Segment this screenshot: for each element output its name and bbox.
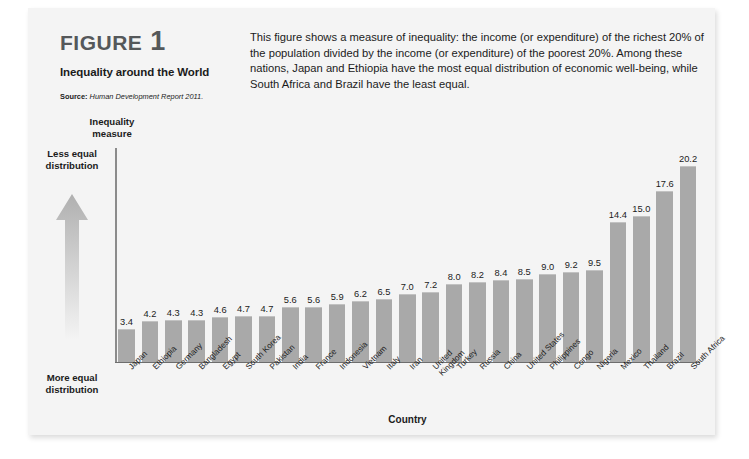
- bar-slot: 20.2: [677, 149, 700, 362]
- scale-legend: Less equal distribution More equal distr…: [34, 146, 110, 396]
- bar-slot: 5.9: [326, 149, 349, 362]
- figure-title-block: FIGURE 1 Inequality around the World Sou…: [60, 26, 240, 101]
- x-axis-title: Country: [115, 414, 700, 425]
- bar-value-label: 20.2: [673, 154, 704, 164]
- bars-layer: 3.44.24.34.34.64.74.75.65.65.96.26.57.07…: [115, 149, 700, 362]
- source-label: Source:: [60, 92, 88, 101]
- bar: [399, 294, 416, 362]
- figure-header: FIGURE 1 Inequality around the World Sou…: [28, 8, 715, 108]
- bar: [516, 279, 533, 361]
- bar-slot: 5.6: [302, 149, 325, 362]
- bar: [610, 222, 627, 361]
- bar-slot: 9.5: [583, 149, 606, 362]
- figure-subtitle: Inequality around the World: [60, 66, 240, 78]
- bar-slot: 7.0: [396, 149, 419, 362]
- bar: [633, 216, 650, 361]
- bar-slot: 8.0: [443, 149, 466, 362]
- bar: [305, 307, 322, 361]
- bar-value-label: 9.5: [579, 258, 610, 268]
- figure-description: This figure shows a measure of inequalit…: [250, 30, 705, 92]
- x-axis-tick-labels: JapanEthiopiaGermanyBangladeshEgyptSouth…: [115, 365, 700, 417]
- bar-slot: 9.0: [536, 149, 559, 362]
- bar-slot: 14.4: [606, 149, 629, 362]
- scale-legend-top-label: Less equal distribution: [34, 148, 110, 172]
- bar: [118, 329, 135, 362]
- bar-slot: 3.4: [115, 149, 138, 362]
- bar-slot: 6.5: [372, 149, 395, 362]
- bar-slot: 9.2: [560, 149, 583, 362]
- bar-slot: 4.2: [138, 149, 161, 362]
- bar-slot: 5.6: [279, 149, 302, 362]
- figure-panel: FIGURE 1 Inequality around the World Sou…: [28, 8, 715, 435]
- plot-area: 3.44.24.34.34.64.74.75.65.65.96.26.57.07…: [115, 148, 700, 363]
- bar-slot: 7.2: [419, 149, 442, 362]
- source-text: Human Development Report 2011.: [90, 92, 204, 101]
- up-arrow-gradient-icon: [56, 194, 88, 340]
- bar: [422, 292, 439, 362]
- bar-slot: 8.5: [513, 149, 536, 362]
- bar: [680, 166, 697, 362]
- figure-number: 1: [150, 26, 165, 57]
- bar-slot: 4.3: [162, 149, 185, 362]
- bar-slot: 4.3: [185, 149, 208, 362]
- figure-word: FIGURE: [60, 31, 142, 55]
- bar: [656, 191, 673, 361]
- bar-value-label: 4.7: [251, 304, 282, 314]
- bar-slot: 4.7: [255, 149, 278, 362]
- chart-region: Inequality measure Less equal distributi…: [28, 108, 715, 435]
- figure-source: Source: Human Development Report 2011.: [60, 92, 240, 101]
- bar-slot: 4.6: [209, 149, 232, 362]
- bar-slot: 8.2: [466, 149, 489, 362]
- bar-value-label: 17.6: [649, 179, 680, 189]
- bar-value-label: 15.0: [626, 204, 657, 214]
- figure-label-row: FIGURE 1: [60, 26, 240, 57]
- bar-slot: 17.6: [653, 149, 676, 362]
- scale-legend-bottom-label: More equal distribution: [34, 372, 110, 396]
- y-axis-title: Inequality measure: [70, 116, 154, 139]
- bar-slot: 8.4: [489, 149, 512, 362]
- bar-slot: 4.7: [232, 149, 255, 362]
- bar-slot: 6.2: [349, 149, 372, 362]
